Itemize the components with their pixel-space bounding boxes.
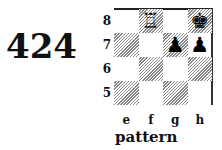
square-g8 — [163, 9, 188, 33]
rank-label-5: 5 — [102, 86, 112, 100]
black-pawn-icon: ♟ — [163, 33, 188, 57]
square-e5 — [114, 81, 139, 105]
rank-label-7: 7 — [102, 38, 112, 52]
black-king-icon: ♚ — [188, 9, 213, 33]
file-label-f: f — [139, 113, 164, 127]
diagram-number: 424 — [6, 26, 77, 66]
file-label-g: g — [163, 113, 188, 127]
square-g5 — [163, 81, 188, 105]
square-e7 — [114, 33, 139, 57]
square-g6 — [163, 57, 188, 81]
square-h5 — [188, 81, 213, 105]
file-label-e: e — [114, 113, 139, 127]
square-e6 — [114, 57, 139, 81]
rank-label-8: 8 — [102, 14, 112, 28]
diagram-caption: pattern — [115, 128, 177, 146]
square-f5 — [139, 81, 164, 105]
square-h6 — [188, 57, 213, 81]
square-f6 — [139, 57, 164, 81]
rank-label-6: 6 — [102, 62, 112, 76]
black-pawn-icon: ♟ — [188, 33, 213, 57]
square-e8 — [114, 9, 139, 33]
white-rook-icon: ♖ — [139, 9, 164, 33]
file-label-h: h — [188, 113, 213, 127]
square-f7 — [139, 33, 164, 57]
